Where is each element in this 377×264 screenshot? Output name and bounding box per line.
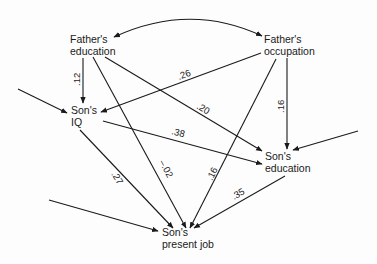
- correlation-arrow-fathers: [114, 19, 262, 37]
- arrow-fe-job: [93, 57, 186, 228]
- residual-arrow-iq: [18, 89, 67, 113]
- node-fathers-occupation: Father's occupation: [264, 33, 315, 57]
- arrow-se-job: [194, 176, 285, 228]
- node-sons-education: Son's education: [265, 150, 311, 174]
- node-fathers-education: Father's education: [70, 33, 116, 57]
- node-sons-iq: Son's IQ: [71, 104, 100, 128]
- coef-fe-job: –.02: [157, 158, 175, 179]
- arrow-fo-job: [190, 59, 276, 228]
- coef-fe-iq: .12: [71, 73, 82, 86]
- coef-fo-se: .16: [275, 100, 286, 113]
- residual-arrow-se: [293, 131, 358, 150]
- coef-iq-job: .27: [109, 169, 125, 186]
- residual-arrow-job: [49, 200, 158, 231]
- node-sons-present-job: Son's present job: [162, 226, 214, 250]
- arrow-fo-iq: [101, 53, 261, 112]
- coef-iq-se: .38: [170, 125, 186, 139]
- path-diagram: Father's education Father's occupation S…: [0, 0, 377, 264]
- coef-fo-job: .16: [204, 165, 220, 182]
- coef-fe-se: .20: [195, 100, 212, 116]
